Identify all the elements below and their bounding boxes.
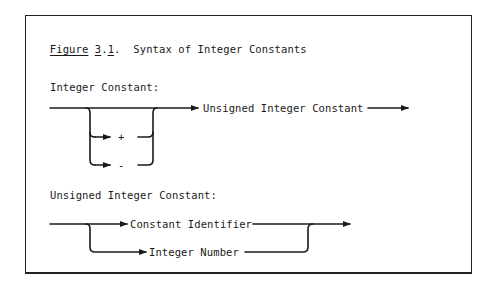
integer-number-arrow [86, 224, 146, 252]
syntax-diagram-lines [0, 0, 500, 289]
